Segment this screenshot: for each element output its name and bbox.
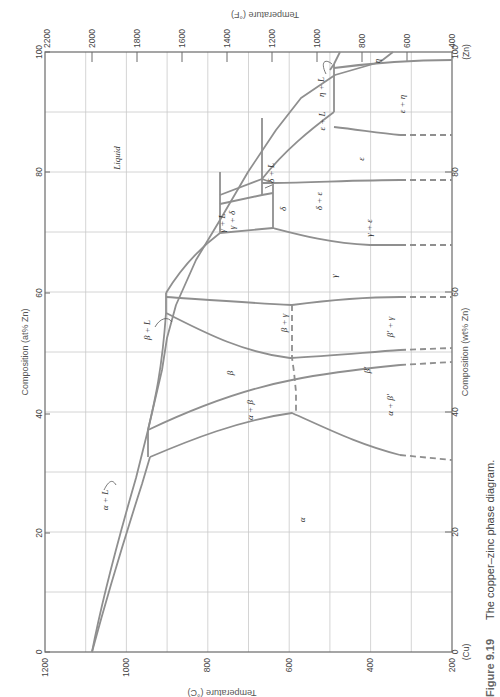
svg-text:20: 20 [450,527,460,537]
figure-caption: The copper–zinc phase diagram. [484,460,496,620]
cu-label: (Cu) [461,644,471,661]
svg-text:2000: 2000 [87,29,97,48]
alpha-solvus-dashed [400,455,452,460]
label-alpha: α [297,517,307,522]
svg-text:600: 600 [402,34,412,48]
beta-alpha-solvus-dashed [400,362,452,365]
phase-diagram: Liquid α α + L β β + L α + β β' α + β' β… [0,0,500,697]
label-liquid: Liquid [112,146,122,171]
c-tick-labels: 1200 1000 800 600 400 200 [40,658,457,677]
label-delta-L: δ + L [266,163,276,183]
label-delta: δ [278,206,288,211]
label-beta-prime-gamma: β' + γ [385,316,395,338]
alpha-L-arrow [104,481,116,490]
eta-solvus [334,60,452,68]
eta-solidus [334,52,340,64]
wt-axis-label: Composition (wt% Zn) [460,308,470,397]
alpha-solidus [92,457,150,652]
svg-text:1600: 1600 [177,29,187,48]
delta-boundary-1 [220,193,273,204]
label-alpha-beta-prime: α + β' [385,393,395,416]
f-ticks [92,52,407,62]
label-beta-L: β + L [142,320,152,341]
label-gamma-delta: γ + δ [227,210,237,229]
gamma-solidus [166,233,220,293]
gamma-beta-solvus [166,297,400,305]
delta-solidus [220,179,262,195]
svg-text:1000: 1000 [121,658,131,677]
zn-label: (Zn) [461,44,471,60]
f-tick-labels: 2200 2000 1800 1600 1400 1200 1000 800 6… [42,29,457,48]
figure-label: Figure 9.19 [484,639,496,697]
svg-text:80: 80 [450,167,460,177]
delta-epsilon-arrow [265,185,272,188]
label-delta-epsilon: δ + ε [314,191,324,210]
label-beta: β [225,370,235,376]
svg-text:1200: 1200 [40,658,50,677]
label-gamma-L: γ + L [217,213,227,232]
label-epsilon-eta: ε + η [397,94,407,113]
delta-epsilon-line [262,179,273,228]
svg-text:1400: 1400 [222,29,232,48]
svg-text:600: 600 [284,658,294,672]
svg-text:0: 0 [450,649,460,654]
label-alpha-L: α + L [100,490,110,510]
label-beta-gamma: β + γ [279,313,289,333]
svg-text:1800: 1800 [132,29,142,48]
svg-text:1200: 1200 [267,29,277,48]
svg-text:0: 0 [34,649,44,654]
svg-text:2200: 2200 [42,29,52,48]
label-epsilon: ε [356,157,366,161]
svg-text:200: 200 [447,658,457,672]
label-eta: η [372,58,382,63]
phase-labels: Liquid α α + L β β + L α + β β' α + β' β… [100,58,407,522]
svg-text:60: 60 [34,288,44,298]
svg-text:800: 800 [357,34,367,48]
label-epsilon-L: ε + L [317,111,327,130]
label-alpha-beta: α + β [245,400,255,420]
label-beta-prime: β' [362,366,372,374]
svg-text:800: 800 [202,658,212,672]
svg-text:400: 400 [365,658,375,672]
order-disorder-line [292,305,296,413]
at-tick-labels: 0 20 40 60 80 100 [34,45,44,655]
label-eta-L: η + L [316,77,326,97]
label-gamma: γ [329,274,339,278]
temp-c-axis-label: Temperature (°C) [187,688,256,697]
grid [45,52,452,652]
svg-text:100: 100 [450,45,460,59]
at-axis-label: Composition (at% Zn) [20,308,30,395]
alpha-solvus [150,413,400,457]
temp-f-axis-label: Temperature (°F) [231,10,299,20]
epsilon-eta-solvus [334,127,400,135]
beta-alpha-solvus [148,365,400,430]
svg-text:80: 80 [34,167,44,177]
label-gamma-epsilon: γ + ε [364,219,374,237]
svg-text:40: 40 [34,409,44,419]
beta-gamma-solvus-dashed [400,348,452,350]
svg-text:20: 20 [34,528,44,538]
svg-text:60: 60 [450,287,460,297]
svg-text:1000: 1000 [312,29,322,48]
epsilon-gamma-solvus [262,180,400,183]
svg-text:40: 40 [450,407,460,417]
